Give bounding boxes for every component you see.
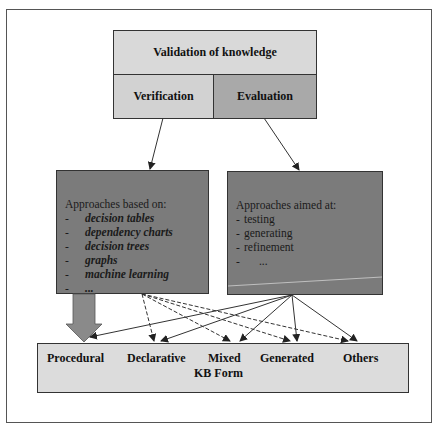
block-arrow-icon [66,294,102,342]
verification-arrow [150,118,163,169]
connector-arrows [0,0,438,435]
evaluation-arrow [264,118,299,170]
